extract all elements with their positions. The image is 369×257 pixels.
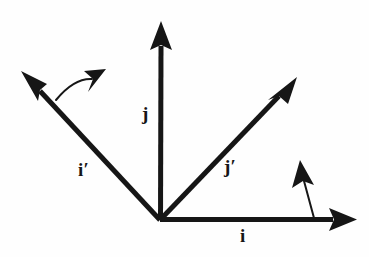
vector-j-prime-shaft [160, 96, 279, 220]
vector-j-shaft [161, 46, 162, 220]
rotation-arc-left-path [56, 79, 92, 100]
vector-canvas [0, 0, 369, 257]
rotation-arc-left [56, 69, 106, 100]
vector-i-prime [21, 71, 160, 220]
rotation-arc-right-arrowhead [292, 160, 314, 188]
rotation-arc-right-path [304, 181, 314, 218]
rotation-arc-right [292, 160, 314, 218]
label-j-prime: j′ [224, 157, 236, 176]
vector-j [150, 21, 172, 220]
vector-j-arrowhead [150, 21, 172, 50]
label-i-prime: i′ [78, 160, 89, 179]
label-j: j [142, 104, 148, 123]
vector-diagram: j i i′ j′ [0, 0, 369, 257]
vector-i [160, 208, 357, 231]
vector-i-arrowhead [329, 208, 357, 231]
label-i: i [240, 226, 245, 245]
vector-j-prime [160, 77, 297, 220]
rotation-arc-left-arrowhead [84, 69, 106, 92]
